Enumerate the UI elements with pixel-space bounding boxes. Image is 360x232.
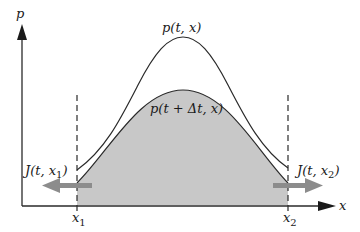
diffusion-flux-diagram: p x p(t, x) p(t + Δt, x) J(t, x1) J(t, x… bbox=[0, 0, 360, 232]
flux-j-x2-label: J(t, x2) bbox=[294, 163, 340, 180]
flux-j-x1-label: J(t, x1) bbox=[22, 163, 68, 180]
boundary-x1-label: x1 bbox=[72, 210, 86, 228]
y-axis-arrowhead-icon bbox=[17, 24, 27, 40]
curve-p-t-plus-dt-label: p(t + Δt, x) bbox=[150, 101, 223, 116]
curve-p-t-label: p(t, x) bbox=[162, 20, 201, 35]
boundary-x2-label: x2 bbox=[283, 210, 297, 228]
x-axis-label: x bbox=[339, 198, 347, 213]
x-axis-arrowhead-icon bbox=[318, 201, 336, 211]
y-axis-label: p bbox=[16, 6, 25, 21]
